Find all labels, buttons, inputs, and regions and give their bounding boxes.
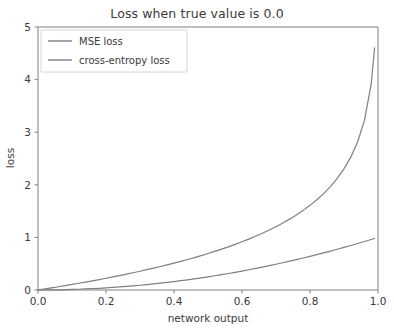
x-tick-label: 0.2 [98, 295, 115, 307]
legend-label-mse: MSE loss [79, 36, 123, 47]
plot-canvas: 0.00.20.40.60.81.0 012345 network output… [0, 0, 394, 332]
y-tick-label: 1 [24, 231, 31, 243]
chart-legend[interactable]: MSE loss cross-entropy loss [41, 30, 187, 72]
series-line-0 [38, 238, 375, 290]
series-line-1 [38, 48, 375, 290]
y-tick-label: 4 [24, 73, 31, 85]
x-tick-label: 0.4 [166, 295, 183, 307]
x-axis-label: network output [168, 312, 249, 324]
y-tick-label: 2 [24, 179, 31, 191]
y-axis-label: loss [4, 148, 16, 168]
x-axis-ticks: 0.00.20.40.60.81.0 [30, 290, 387, 307]
x-tick-label: 0.6 [234, 295, 251, 307]
chart-figure: Loss when true value is 0.0 0.00.20.40.6… [0, 0, 394, 332]
y-axis-ticks: 012345 [24, 21, 38, 296]
legend-label-cross-entropy: cross-entropy loss [79, 55, 170, 66]
y-tick-label: 3 [24, 126, 31, 138]
y-tick-label: 5 [24, 21, 31, 33]
x-tick-label: 0.0 [30, 295, 47, 307]
x-tick-label: 0.8 [302, 295, 319, 307]
data-series-group [38, 48, 375, 290]
y-tick-label: 0 [24, 284, 31, 296]
x-tick-label: 1.0 [370, 295, 387, 307]
